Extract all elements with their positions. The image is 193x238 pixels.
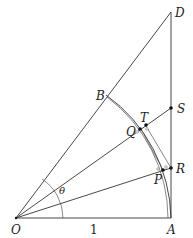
point-P [161,168,165,172]
label-T: T [140,111,149,125]
line-OR [16,168,171,218]
point-O [15,217,17,219]
diagram-canvas: D B S T Q R P θ O 1 A [0,0,193,238]
marker-P-left [157,168,160,171]
marker-Q-left [136,131,139,134]
label-D: D [174,6,185,20]
arc-AB [106,95,171,218]
point-R [169,166,173,170]
label-P: P [153,173,163,187]
label-length-1: 1 [90,223,98,237]
label-A: A [166,223,176,237]
label-B: B [95,89,105,103]
marker-R-left [165,166,168,169]
label-theta: θ [59,185,65,196]
point-Q [138,127,142,131]
marker-T-right [146,128,149,131]
point-S [169,106,173,110]
label-Q: Q [126,125,136,139]
arc-AB-inner [107,97,168,218]
label-S: S [177,102,185,116]
label-O: O [11,223,21,237]
geometry-diagram: D B S T Q R P θ O 1 A [0,0,193,238]
label-R: R [175,162,185,176]
